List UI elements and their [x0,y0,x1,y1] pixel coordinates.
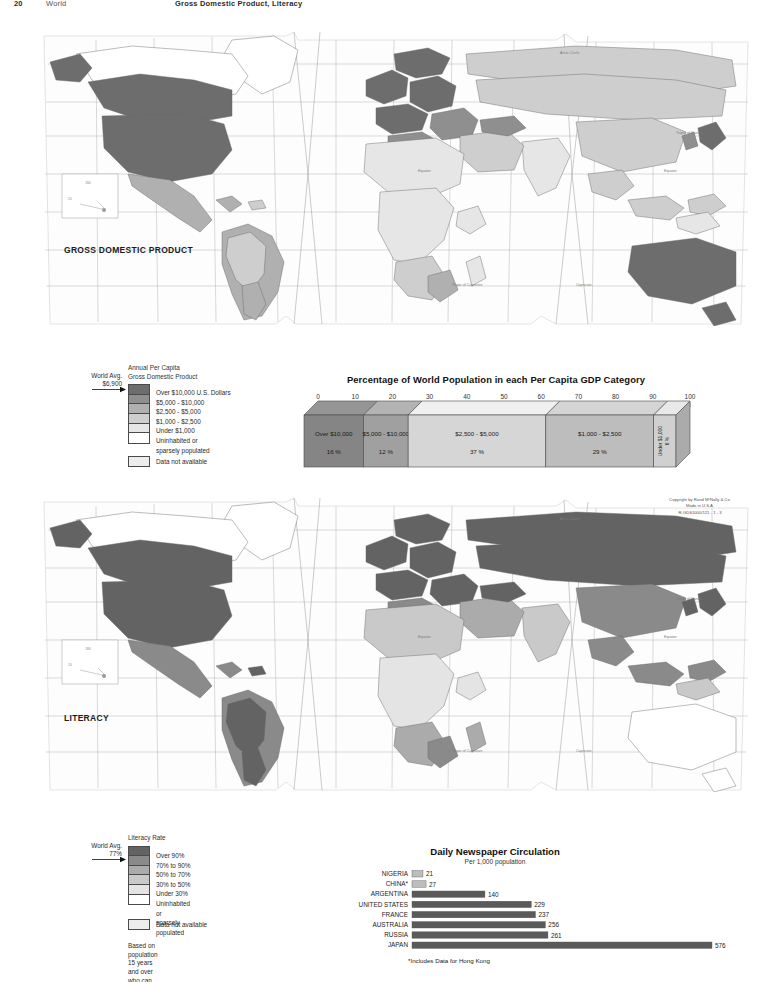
chart-gdp-population: Percentage of World Population in each P… [286,374,706,489]
gdp-axis-tick-30: 30 [426,393,434,400]
legend-gdp: World Avg. $6,900 Annual Per Capita Gros… [70,364,197,444]
legend-label-gdp-3: $1,000 - $2,500 [156,417,231,427]
gdp-bar-value-3: 29 % [593,448,608,455]
legend-swatch-gdp-3 [129,414,149,424]
gdp-bar-label-4: Under $1,000 [657,426,663,457]
svg-text:20: 20 [68,663,72,667]
svg-text:Arctic Circle: Arctic Circle [560,51,579,55]
map-gross-domestic-product: Arctic Circle Tropic of Cancer Equator E… [36,24,752,354]
world-average-arrow-icon [92,856,128,863]
legend-literacy-title: Literacy Rate [128,834,166,843]
copyright-line-3: R-GDS1000/121 - 1 - 3 [645,510,755,516]
gdp-axis-tick-80: 80 [612,393,620,400]
page-number: 20 [14,0,23,8]
gdp-axis-tick-50: 50 [500,393,508,400]
gdp-bar-value-2: 37 % [470,448,485,455]
legend-label-gdp-not-available: Data not available [156,458,207,465]
chart-newspaper-svg: NIGERIA21CHINA*27ARGENTINA140UNITED STAT… [350,868,750,954]
gdp-axis-tick-0: 0 [316,393,320,400]
svg-text:180: 180 [85,647,91,651]
gdp-bar-label-0: Over $10,000 [315,430,353,437]
gdp-axis-tick-100: 100 [685,393,696,400]
news-bar [412,942,712,948]
gdp-axis-tick-20: 20 [389,393,397,400]
news-bar-value: 140 [488,891,499,898]
header-section: World [46,0,66,8]
news-bar-value: 229 [534,901,545,908]
legend-swatch-gdp-2 [129,404,149,414]
news-bar [412,901,531,907]
svg-text:20: 20 [68,197,72,201]
legend-swatch-lit-3 [129,875,149,885]
legend-label-gdp-4: Under $1,000 [156,426,231,436]
gdp-bar-segment-0 [304,415,364,467]
gdp-bar-label-3: $1,000 - $2,500 [578,430,622,437]
svg-text:Equator: Equator [418,169,431,173]
news-country-label: ARGENTINA [371,890,409,897]
legend-label-lit-2: 50% to 70% [156,870,190,880]
svg-text:Tropic of Cancer: Tropic of Cancer [676,597,703,601]
gdp-axis-tick-90: 90 [649,393,657,400]
legend-label-gdp-5: Uninhabited or sparsely populated [156,436,231,455]
legend-swatch-lit-4 [129,885,149,895]
legend-label-lit-not-available: Data not available [156,921,207,928]
legend-swatch-gdp-1 [129,395,149,405]
legend-swatch-gdp-4 [129,424,149,434]
world-average-arrow-icon [92,386,128,393]
gdp-bar-label-1: $5,000 - $10,000 [362,430,409,437]
svg-text:Equator: Equator [418,635,431,639]
news-country-label: CHINA* [386,880,409,887]
news-bar-value: 27 [429,881,437,888]
gdp-bar-segment-1 [364,415,409,467]
svg-text:180: 180 [85,181,91,185]
chart-gdp-population-svg: 0102030405060708090100 Over $10,00016 %$… [286,389,706,489]
gdp-bar-label-2: $2,500 - $5,000 [455,430,499,437]
legend-literacy-labels: Over 90% 70% to 90% 50% to 70% 30% to 50… [156,851,190,918]
legend-swatch-gdp-not-available [128,456,150,467]
gdp-axis-tick-10: 10 [352,393,360,400]
news-country-label: RUSSIA [384,931,409,938]
news-bar-value: 261 [551,932,562,939]
news-country-label: NIGERIA [382,870,409,877]
world-map-literacy-svg: Arctic Circle Tropic of Cancer Equator E… [36,490,752,820]
world-map-gdp-svg: Arctic Circle Tropic of Cancer Equator E… [36,24,752,354]
legend-label-lit-4: Under 30% [156,889,190,899]
news-bar-value: 237 [538,911,549,918]
gdp-bar-segment-2 [408,415,546,467]
svg-text:Tropic of Cancer: Tropic of Cancer [676,131,703,135]
news-bar [412,922,545,928]
legend-swatch-lit-0 [129,847,149,857]
svg-text:Tropic of Capricorn: Tropic of Capricorn [452,749,482,753]
svg-text:Equator: Equator [664,169,677,173]
gdp-axis-tick-40: 40 [463,393,471,400]
gdp-bar-value-1: 12 % [379,448,394,455]
legend-literacy: World Avg. 77% Literacy Rate Over 90% 70… [70,834,166,905]
gdp-bar-value-4: 6 % [664,436,670,445]
legend-gdp-labels: Over $10,000 U.S. Dollars $5,000 - $10,0… [156,388,231,455]
svg-text:Capricorn: Capricorn [576,283,592,287]
legend-swatch-lit-5 [129,895,149,905]
news-bar [412,871,423,877]
svg-text:Arctic Circle: Arctic Circle [560,517,579,521]
page-title: Gross Domestic Product, Literacy [175,0,302,8]
legend-label-gdp-1: $5,000 - $10,000 [156,398,231,408]
legend-swatch-lit-2 [129,866,149,876]
svg-text:Capricorn: Capricorn [576,749,592,753]
svg-text:Tropic of Capricorn: Tropic of Capricorn [452,283,482,287]
legend-swatch-lit-1 [129,856,149,866]
chart-newspaper-subtitle: Per 1,000 population [350,858,640,865]
news-country-label: UNITED STATES [359,901,408,908]
news-bar-value: 256 [548,921,559,928]
gdp-axis-tick-60: 60 [538,393,546,400]
news-bar-value: 21 [426,870,434,877]
gdp-bar-top-2 [408,401,560,415]
legend-label-lit-0: Over 90% [156,851,190,861]
map-inset-box: 180 20 [62,174,118,218]
map-literacy: Arctic Circle Tropic of Cancer Equator E… [36,490,752,820]
chart-gdp-population-title: Percentage of World Population in each P… [286,374,706,385]
legend-swatch-gdp-5 [129,433,149,443]
chart-newspaper-circulation: Daily Newspaper Circulation Per 1,000 po… [350,846,750,964]
legend-literacy-note: Based on population 15 years and over wh… [128,942,166,982]
copyright-notice: Copyright by Rand MᶜNally & Co. Made in … [645,497,755,516]
chart-newspaper-title: Daily Newspaper Circulation [350,846,640,857]
